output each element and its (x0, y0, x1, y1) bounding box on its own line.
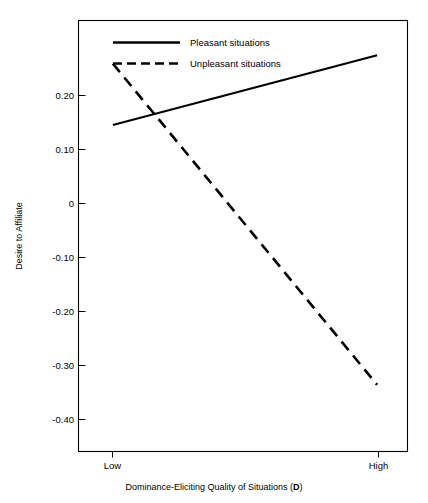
x-axis-tick-labels: Low High (104, 460, 388, 471)
y-tick-label: -0.40 (52, 414, 74, 425)
y-tick-label: 0.20 (56, 90, 75, 101)
y-tick-label: 0 (69, 198, 74, 209)
y-tick-label: -0.10 (52, 252, 74, 263)
line-chart: 0.20 0.10 0 -0.10 -0.20 -0.30 -0.40 Desi… (0, 0, 428, 503)
plot-frame (79, 21, 408, 452)
x-axis-title-tail: ) (300, 482, 303, 492)
y-tick-label: -0.30 (52, 360, 74, 371)
x-tick-label-high: High (369, 460, 389, 471)
x-axis-title-text: Dominance-Eliciting Quality of Situation… (125, 482, 293, 492)
legend-label-unpleasant: Unpleasant situations (190, 58, 281, 69)
y-tick-label: 0.10 (56, 144, 75, 155)
x-axis-ticks (113, 452, 379, 458)
x-tick-label-low: Low (104, 460, 122, 471)
y-axis-title: Desire to Affiliate (14, 202, 24, 269)
chart-figure: 0.20 0.10 0 -0.10 -0.20 -0.30 -0.40 Desi… (0, 0, 428, 503)
x-axis-title: Dominance-Eliciting Quality of Situation… (125, 482, 302, 492)
y-tick-label: -0.20 (52, 306, 74, 317)
legend-label-pleasant: Pleasant situations (190, 37, 270, 48)
y-axis-tick-labels: 0.20 0.10 0 -0.10 -0.20 -0.30 -0.40 (52, 90, 74, 425)
